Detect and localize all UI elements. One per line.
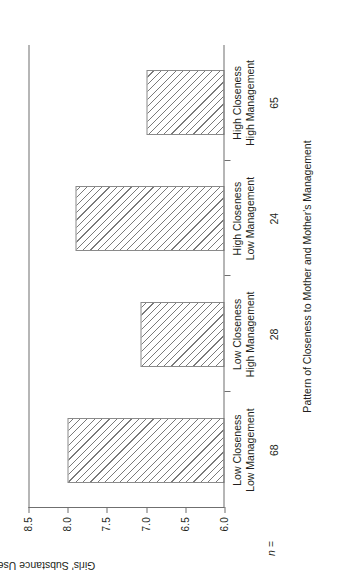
- category-sample-size: 65: [267, 45, 280, 161]
- bar: [67, 418, 224, 483]
- y-axis-tick: [185, 507, 186, 513]
- category-label-line: High Management: [243, 277, 256, 393]
- plot-area: [28, 45, 224, 508]
- y-axis-tick: [146, 507, 147, 513]
- x-axis-category-labels: Low ClosenessLow Management68Low Closene…: [230, 45, 290, 508]
- category-sample-size: 68: [267, 392, 280, 508]
- y-axis-tick-label: 6.0: [219, 517, 230, 532]
- x-axis-category-label: Low ClosenessHigh Management28: [230, 277, 280, 393]
- x-axis-tick: [224, 276, 230, 277]
- y-axis-tick: [28, 507, 29, 513]
- category-label-line: High Closeness: [230, 161, 243, 277]
- category-label-line: Low Management: [243, 392, 256, 508]
- x-axis-category-label: Low ClosenessLow Management68: [230, 392, 280, 508]
- category-label-line: High Closeness: [230, 45, 243, 161]
- category-label-line: Low Management: [243, 161, 256, 277]
- category-sample-size: 28: [267, 277, 280, 393]
- sample-size-legend: n =: [264, 541, 276, 556]
- y-axis-tick-label: 7.5: [101, 517, 112, 532]
- y-axis-tick-label: 6.5: [179, 517, 190, 532]
- bar: [75, 186, 224, 251]
- category-label-line: Low Closeness: [230, 392, 243, 508]
- x-axis-tick: [224, 391, 230, 392]
- category-label-line: Low Closeness: [230, 277, 243, 393]
- y-axis-label: Girls' Substance Use: [0, 560, 126, 570]
- x-axis-label: Pattern of Closeness to Mother and Mothe…: [300, 45, 312, 508]
- bar-series: [28, 45, 224, 508]
- x-axis-category-label: High ClosenessLow Management24: [230, 161, 280, 277]
- x-axis-category-label: High ClosenessHigh Management65: [230, 45, 280, 161]
- y-axis: 6.06.57.07.58.08.5: [28, 507, 224, 508]
- bar: [140, 302, 224, 367]
- x-axis-tick: [224, 160, 230, 161]
- bar-chart-figure: 6.06.57.07.58.08.5 Girls' Substance Use …: [0, 0, 343, 570]
- bar: [146, 70, 224, 135]
- category-label-line: High Management: [243, 45, 256, 161]
- y-axis-tick-label: 8.0: [62, 517, 73, 532]
- y-axis-tick-label: 8.5: [23, 517, 34, 532]
- category-sample-size: 24: [267, 161, 280, 277]
- rotated-figure-wrapper: 6.06.57.07.58.08.5 Girls' Substance Use …: [0, 0, 343, 570]
- x-axis-ticks: [224, 45, 230, 508]
- y-axis-tick: [67, 507, 68, 513]
- y-axis-tick-label: 7.0: [140, 517, 151, 532]
- y-axis-tick: [106, 507, 107, 513]
